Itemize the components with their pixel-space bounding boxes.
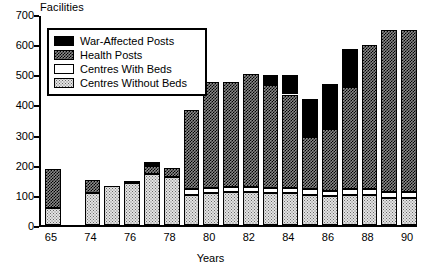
legend-swatch-war-affected-posts: [54, 36, 74, 46]
x-axis-title: Years: [0, 252, 421, 264]
x-tick-label: 90: [401, 231, 413, 243]
legend-item: Health Posts: [54, 48, 200, 62]
x-tick-label: 82: [243, 231, 255, 243]
x-tick-label: 86: [322, 231, 334, 243]
x-tick-label: 80: [203, 231, 215, 243]
chart-root: Facilities 0100200300400500600700 657476…: [0, 0, 421, 274]
x-tick-label: 88: [361, 231, 373, 243]
legend-label: Centres With Beds: [80, 64, 172, 75]
legend-label: War-Affected Posts: [80, 36, 174, 47]
legend-label: Centres Without Beds: [80, 78, 187, 89]
x-tick-label: 76: [124, 231, 136, 243]
legend-label: Health Posts: [80, 50, 142, 61]
x-tick-label: 84: [282, 231, 294, 243]
legend-item: Centres Without Beds: [54, 76, 200, 90]
x-tick-label: 65: [45, 231, 57, 243]
legend-swatch-centres-with-beds: [54, 64, 74, 74]
x-tick-label: 74: [84, 231, 96, 243]
legend-swatch-centres-without-beds: [54, 78, 74, 88]
legend-swatch-health-posts: [54, 50, 74, 60]
chart-legend: War-Affected Posts Health Posts Centres …: [47, 28, 207, 96]
x-tick-label: 78: [164, 231, 176, 243]
legend-item: War-Affected Posts: [54, 34, 200, 48]
legend-item: Centres With Beds: [54, 62, 200, 76]
